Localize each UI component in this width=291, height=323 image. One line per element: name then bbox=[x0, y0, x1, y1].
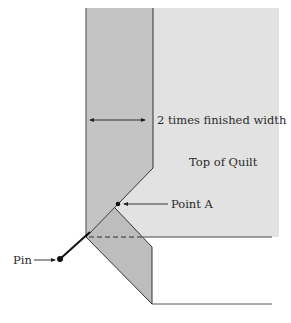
width-note-label: 2 times finished width bbox=[157, 113, 287, 127]
quilt-top-label: Top of Quilt bbox=[189, 155, 258, 169]
diagram-svg: 2 times finished width Top of Quilt Poin… bbox=[0, 0, 291, 323]
pin-shaft bbox=[60, 232, 90, 259]
pin-head-icon bbox=[57, 256, 63, 262]
point-a-label: Point A bbox=[171, 197, 214, 211]
binding-corner-diagram: 2 times finished width Top of Quilt Poin… bbox=[0, 0, 291, 323]
point-a-dot bbox=[116, 202, 121, 207]
pin-label: Pin bbox=[13, 253, 32, 267]
pin-arrow-icon bbox=[51, 258, 56, 262]
